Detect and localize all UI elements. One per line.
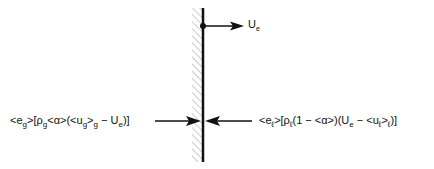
diagram-canvas [0, 0, 434, 169]
left-flux-expression: <eg>[ρg<α>(<ug>g − Ue)] [10, 113, 130, 127]
velocity-label-main: U [248, 18, 256, 30]
wall-hatching [192, 8, 202, 162]
right-flux-expression: <eℓ>[ρℓ(1 − <α>)(Ue − <uℓ>ℓ)] [259, 113, 397, 127]
velocity-label-sub: e [256, 25, 260, 32]
velocity-label: Ue [248, 18, 260, 32]
